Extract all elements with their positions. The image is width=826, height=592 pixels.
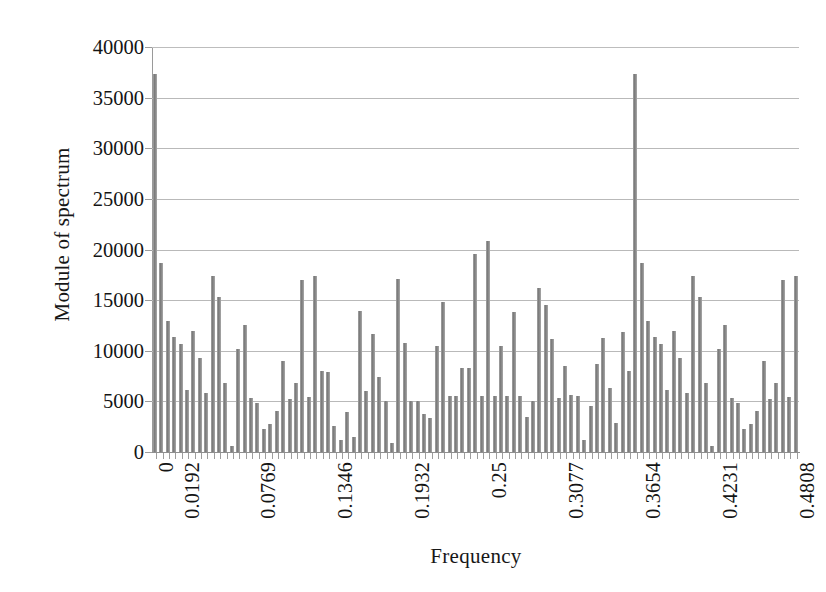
bar (281, 361, 285, 452)
x-tick-mark (752, 453, 753, 459)
bar (441, 302, 445, 452)
x-tick-mark (797, 453, 798, 459)
x-tick-mark (515, 453, 516, 459)
x-tick-mark (310, 453, 311, 459)
bar (646, 321, 650, 452)
y-tick-label: 15000 (40, 289, 144, 312)
bar (768, 399, 772, 452)
bar (159, 263, 163, 452)
x-tick-mark (201, 453, 202, 459)
x-tick-mark (457, 453, 458, 459)
x-tick-mark (425, 453, 426, 459)
bar (627, 371, 631, 452)
bar (371, 334, 375, 452)
x-tick-mark (547, 453, 548, 459)
y-tick-label: 30000 (40, 137, 144, 160)
bar (486, 241, 490, 452)
bar (211, 276, 215, 452)
x-tick-mark (502, 453, 503, 459)
y-tick-mark (145, 199, 152, 200)
bar (422, 414, 426, 452)
bar (601, 338, 605, 452)
x-tick-mark (566, 453, 567, 459)
y-tick-label: 5000 (40, 390, 144, 413)
x-tick-mark (438, 453, 439, 459)
bar (428, 418, 432, 452)
bar (384, 401, 388, 452)
x-tick-mark (707, 453, 708, 459)
x-tick-label: 0.4808 (796, 462, 819, 519)
x-tick-mark (233, 453, 234, 459)
bar (704, 383, 708, 452)
bar (339, 440, 343, 452)
bar (736, 403, 740, 452)
x-tick-mark (579, 453, 580, 459)
y-tick-label: 25000 (40, 187, 144, 210)
bar (460, 368, 464, 452)
x-tick-mark (336, 453, 337, 459)
bar (762, 361, 766, 452)
x-tick-mark (598, 453, 599, 459)
x-tick-mark (169, 453, 170, 459)
y-tick-mark (145, 250, 152, 251)
bar (326, 372, 330, 452)
bar (685, 393, 689, 452)
x-tick-mark (412, 453, 413, 459)
bar (191, 331, 195, 453)
bar (454, 396, 458, 452)
bar (595, 364, 599, 452)
bar (653, 337, 657, 452)
x-tick-mark (239, 453, 240, 459)
bar (236, 349, 240, 452)
bar (243, 325, 247, 452)
x-axis-ticks (152, 453, 800, 460)
x-tick-mark (265, 453, 266, 459)
x-tick-mark (790, 453, 791, 459)
plot-area (152, 47, 799, 452)
x-tick-mark (662, 453, 663, 459)
x-tick-mark (195, 453, 196, 459)
bar (569, 395, 573, 452)
bar (678, 358, 682, 452)
y-tick-label: 0 (40, 441, 144, 464)
x-tick-mark (605, 453, 606, 459)
x-tick-mark (259, 453, 260, 459)
x-tick-mark (291, 453, 292, 459)
bar (416, 401, 420, 452)
y-tick-mark (145, 148, 152, 149)
bar (390, 443, 394, 452)
x-tick-mark (444, 453, 445, 459)
bar (198, 358, 202, 452)
bar (781, 280, 785, 452)
x-tick-mark (496, 453, 497, 459)
x-tick-mark (643, 453, 644, 459)
y-tick-label: 40000 (40, 36, 144, 59)
x-tick-mark (393, 453, 394, 459)
x-tick-mark (681, 453, 682, 459)
y-tick-label: 20000 (40, 238, 144, 261)
bar (518, 396, 522, 452)
x-tick-mark (585, 453, 586, 459)
x-tick-mark (630, 453, 631, 459)
bar (172, 337, 176, 452)
x-tick-mark (451, 453, 452, 459)
bar (300, 280, 304, 452)
bar (480, 396, 484, 452)
bar (525, 417, 529, 452)
x-tick-mark (182, 453, 183, 459)
bar (288, 399, 292, 452)
x-tick-mark (521, 453, 522, 459)
bar (223, 383, 227, 452)
x-tick-mark (246, 453, 247, 459)
bar (537, 288, 541, 452)
x-tick-mark (541, 453, 542, 459)
x-tick-mark (489, 453, 490, 459)
bar (352, 437, 356, 452)
bar (505, 396, 509, 452)
x-tick-mark (746, 453, 747, 459)
bar (665, 390, 669, 452)
bar (730, 398, 734, 452)
bar (467, 368, 471, 452)
x-tick-mark (720, 453, 721, 459)
bar (396, 279, 400, 452)
